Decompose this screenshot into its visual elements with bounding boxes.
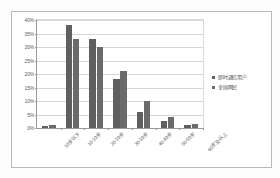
- chart-figure: 0%5%10%15%20%25%30%35%40% 10岁以下10-19岁20-…: [0, 0, 280, 178]
- x-axis-tick-label: 20-29岁: [109, 131, 125, 147]
- y-axis-tick-label: 0%: [27, 126, 34, 131]
- bars-layer: [37, 20, 203, 128]
- x-axis-tick-mark: [108, 128, 109, 130]
- y-axis-tick-label: 25%: [25, 58, 34, 63]
- bar[interactable]: [49, 125, 55, 129]
- x-axis-tick-mark: [156, 128, 157, 130]
- x-axis-tick-mark: [132, 128, 133, 130]
- bar-group: [184, 20, 198, 128]
- bar[interactable]: [120, 71, 126, 128]
- y-axis-tick-label: 5%: [27, 112, 34, 117]
- x-axis-tick-mark: [84, 128, 85, 130]
- bar-group: [89, 20, 103, 128]
- legend-label: 即时通信用户: [218, 74, 247, 80]
- bar[interactable]: [168, 117, 174, 128]
- y-axis-tick-label: 20%: [25, 72, 34, 77]
- bar[interactable]: [42, 126, 48, 128]
- bar[interactable]: [161, 121, 167, 128]
- x-axis-tick-label: 30-39岁: [133, 131, 149, 147]
- x-axis-tick-label: 10岁以下: [63, 131, 81, 149]
- y-axis-tick-label: 35%: [25, 31, 34, 36]
- y-axis-tick-label: 30%: [25, 45, 34, 50]
- x-axis-tick-mark: [179, 128, 180, 130]
- legend-item-series-1[interactable]: 即时通信用户: [212, 74, 268, 80]
- legend-swatch-icon: [212, 86, 215, 89]
- bar-group: [42, 20, 56, 128]
- bar[interactable]: [144, 101, 150, 128]
- y-axis-tick-label: 40%: [25, 18, 34, 23]
- chart-legend: 即时通信用户 全国网民: [212, 74, 268, 94]
- bar-group: [66, 20, 80, 128]
- legend-item-series-2[interactable]: 全国网民: [212, 84, 268, 90]
- bar[interactable]: [113, 79, 119, 128]
- bar[interactable]: [73, 39, 79, 128]
- x-axis-tick-label: 10-19岁: [85, 131, 101, 147]
- x-axis-tick-mark: [203, 128, 204, 130]
- bar[interactable]: [184, 125, 190, 128]
- legend-swatch-icon: [212, 76, 215, 79]
- bar-group: [161, 20, 175, 128]
- bar[interactable]: [89, 39, 95, 128]
- y-axis-tick-mark: [35, 128, 37, 129]
- bar[interactable]: [66, 25, 72, 128]
- x-axis-tick-mark: [61, 128, 62, 130]
- y-axis-tick-label: 10%: [25, 99, 34, 104]
- legend-label: 全国网民: [218, 84, 237, 90]
- x-axis-labels: 10岁以下10-19岁20-29岁30-39岁40-49岁50-59岁60岁及以…: [36, 131, 204, 171]
- bar-group: [137, 20, 151, 128]
- x-axis-tick-label: 40-49岁: [157, 131, 173, 147]
- bar-group: [113, 20, 127, 128]
- bar[interactable]: [192, 124, 198, 128]
- bar[interactable]: [137, 112, 143, 128]
- y-axis-tick-label: 15%: [25, 85, 34, 90]
- plot-area: 0%5%10%15%20%25%30%35%40%: [36, 19, 204, 129]
- bar[interactable]: [97, 47, 103, 128]
- x-axis-tick-label: 50-59岁: [180, 131, 196, 147]
